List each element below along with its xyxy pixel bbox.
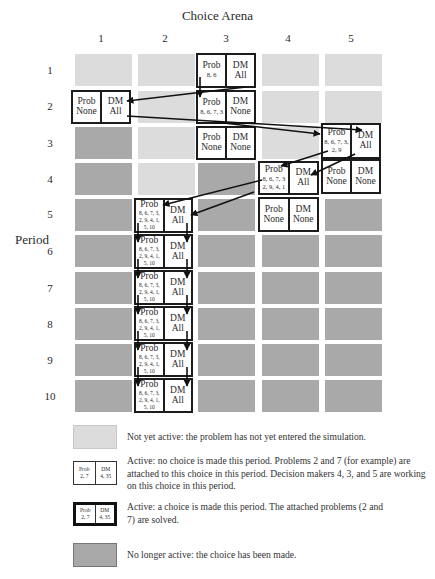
problem-list: 8, 6, 7, 3, 2, 9, 4, 1, 5, 10 [136,282,163,303]
cell-no-longer-active [75,127,132,159]
cell-no-longer-active [75,380,132,412]
cell-not-yet-active [325,91,382,123]
legend-text-active-no-choice: Active: no choice is made this period. P… [127,455,427,493]
row-header-8: 8 [40,318,60,330]
decision-makers: All [172,288,184,298]
cell-not-yet-active [262,127,319,159]
choice-cell-r3-c5: Prob8, 6, 7, 3, 2, 9 DMAll [321,123,381,159]
problem-list: 8, 6, 7, 3, 2, 9, 4, 1, 5, 10 [136,210,163,231]
cell-not-yet-active [138,163,195,195]
dm-label: DM [170,242,185,252]
row-header-9: 9 [40,354,60,366]
prob-label: Prob [140,344,158,354]
choice-cell-r1-c3: Prob8, 6 DMAll [196,53,256,88]
legend-swatch-active-choice-made: Prob2, 7 DM4, 35 [73,502,117,526]
cell-no-longer-active [325,199,382,231]
problem-list: 8, 6, 7, 3 2, 9, 4, 1 [260,175,288,192]
prob-label: Prob [203,98,221,108]
cell-not-yet-active [138,54,195,86]
prob-label: Prob [79,466,89,473]
prob-label: Prob [203,61,221,71]
choice-cell-r7-c2: Prob8, 6, 7, 3, 2, 9, 4, 1, 5, 10 DMAll [134,270,193,305]
column-header-1: 1 [91,32,111,44]
decision-makers: All [172,324,184,334]
problem-list: 8, 6, 7, 3 [200,108,223,116]
prob-label: Prob [140,200,158,210]
choice-cell-r2-c1: ProbNone DMAll [71,90,131,124]
problem-list: 8, 6, 7, 3, 2, 9, 4, 1, 5, 10 [136,390,163,411]
prob-label: Prob [140,236,158,246]
prob-label: Prob [140,380,158,390]
decision-makers: All [359,141,371,151]
cell-not-yet-active [262,91,319,123]
prob-label: Prob [265,165,283,175]
problem-list: 2, 7 [80,473,88,480]
problem-list: None [326,177,347,187]
choice-cell-r5-c4: ProbNone DMNone [258,197,319,232]
cell-no-longer-active [198,344,255,376]
decision-makers: All [109,107,121,117]
cell-no-longer-active [198,199,255,231]
legend-text-not-yet-active: Not yet active: the problem has not yet … [127,431,427,444]
cell-not-yet-active [262,54,319,86]
legend-swatch-active-no-choice: Prob2, 7 DM4, 35 [73,461,117,485]
cell-no-longer-active [198,272,255,304]
decision-makers: 4, 35 [100,473,111,480]
decision-makers: All [297,178,309,188]
cell-no-longer-active [75,344,132,376]
cell-no-longer-active [262,272,319,304]
cell-no-longer-active [75,272,132,304]
choice-cell-r3-c3: ProbNone DMNone [196,126,256,160]
choice-cell-r9-c2: Prob8, 6, 7, 3, 2, 9, 4, 1, 5, 10 DMAll [134,342,193,377]
cell-no-longer-active [198,380,255,412]
cell-no-longer-active [75,199,132,231]
period-axis-label: Period [15,232,49,248]
dm-label: DM [170,386,185,396]
prob-label: Prob [328,128,346,138]
dm-label: DM [170,278,185,288]
choice-cell-r4-c5: ProbNone DMNone [321,159,381,194]
problem-list: 8, 6, 7, 3, 2, 9, 4, 1, 5, 10 [136,354,163,375]
dm-label: DM [170,206,185,216]
row-header-7: 7 [40,282,60,294]
cell-no-longer-active [75,308,132,340]
cell-no-longer-active [325,272,382,304]
dm-label: DM [296,205,311,215]
problem-list: 8, 6, 7, 3, 2, 9, 4, 1, 5, 10 [136,318,163,339]
legend-swatch-not-yet-active [73,425,117,449]
decision-makers: None [293,215,314,225]
row-header-4: 4 [40,173,60,185]
problem-list: None [201,143,222,153]
choice-cell-r4-c4: Prob8, 6, 7, 3 2, 9, 4, 1 DMAll [258,161,319,195]
dm-label: DM [170,350,185,360]
dm-label: DM [170,314,185,324]
cell-not-yet-active [138,91,195,123]
row-header-2: 2 [40,100,60,112]
row-header-1: 1 [40,64,60,76]
row-header-3: 3 [40,137,60,149]
cell-no-longer-active [325,235,382,267]
cell-no-longer-active [325,380,382,412]
decision-makers: None [230,107,251,117]
choice-cell-r10-c2: Prob8, 6, 7, 3, 2, 9, 4, 1, 5, 10 DMAll [134,378,193,413]
legend-swatch-no-longer-active [73,543,117,567]
decision-makers: All [234,71,246,81]
prob-label: Prob [140,308,158,318]
cell-no-longer-active [75,163,132,195]
cell-no-longer-active [262,344,319,376]
prob-label: Prob [80,507,90,514]
choice-cell-r2-c3: Prob8, 6, 7, 3 DMNone [196,90,256,124]
cell-no-longer-active [262,308,319,340]
row-header-10: 10 [40,390,60,402]
cell-not-yet-active [325,54,382,86]
cell-no-longer-active [325,308,382,340]
cell-no-longer-active [198,163,255,195]
cell-not-yet-active [75,54,132,86]
cell-no-longer-active [198,235,255,267]
cell-no-longer-active [262,380,319,412]
decision-makers: All [172,216,184,226]
decision-makers: All [172,252,184,262]
problem-list: 8, 6, 7, 3, 2, 9 [324,138,350,155]
problem-list: 2, 7 [81,514,89,521]
problem-list: 8, 6 [207,71,217,79]
